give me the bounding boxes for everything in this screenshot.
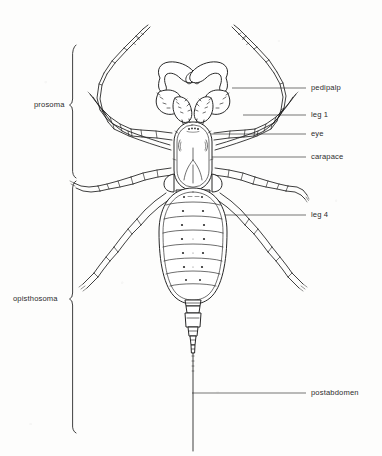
bracket-prosoma: [70, 45, 77, 178]
region-label-prosoma: prosoma: [34, 101, 65, 109]
carapace: [173, 122, 213, 190]
anatomy-figure: .ink { fill: none; stroke: #1c1c1c; stro…: [0, 0, 382, 456]
part-label-leg-4: leg 4: [311, 211, 328, 219]
part-label-carapace: carapace: [311, 153, 343, 161]
flagellum: [192, 353, 194, 451]
part-label-pedipalp: pedipalp: [311, 84, 341, 92]
part-label-leg-1: leg 1: [311, 111, 328, 119]
part-label-eye: eye: [311, 130, 324, 138]
region-brackets: [70, 45, 77, 433]
postabdomen: [185, 300, 201, 353]
leg-4-left: [79, 193, 170, 291]
opisthosoma: [159, 188, 227, 304]
leg-3-left: [70, 168, 172, 192]
leg-4-right: [216, 193, 307, 291]
leg-3-right: [214, 168, 309, 202]
region-label-opisthosoma: opisthosoma: [13, 295, 58, 303]
part-label-postabdomen: postabdomen: [311, 389, 359, 397]
bracket-opisthosoma: [70, 181, 77, 433]
pedipalp-right: [186, 62, 230, 129]
